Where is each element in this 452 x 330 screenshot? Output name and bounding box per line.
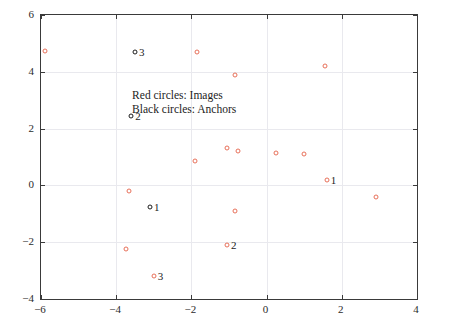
y-axis-tick [413,15,417,16]
y-axis-tick [41,185,45,186]
data-point-images [225,146,230,151]
scatter-plot-figure: 123321 −6−4−2024−4−20246Red circles: Ima… [0,0,452,330]
y-axis-tick [41,299,45,300]
y-axis-tick-label: −4 [14,292,34,304]
data-point-label: 3 [139,46,145,58]
y-axis-tick [41,242,45,243]
plot-area: 123321 [40,14,418,300]
y-axis-tick [413,299,417,300]
legend-annotation-2: Black circles: Anchors [132,103,236,115]
data-point-images [42,48,47,53]
y-axis-tick [413,129,417,130]
data-point-images [225,243,230,248]
data-point-label: 1 [154,201,160,213]
x-axis-tick-label: 0 [263,303,269,315]
data-point-images [193,159,198,164]
x-axis-tick-label: −4 [109,303,121,315]
y-axis-tick-label: 0 [14,178,34,190]
x-axis-tick-label: 4 [413,303,419,315]
gridline-horizontal [41,72,417,73]
y-axis-tick [41,129,45,130]
gridline-vertical [191,15,192,299]
data-point-images [123,247,128,252]
data-point-images [127,189,132,194]
gridline-vertical [342,15,343,299]
x-axis-tick [191,295,192,299]
x-axis-tick [267,15,268,19]
data-point-images [322,64,327,69]
x-axis-tick-label: −2 [185,303,197,315]
data-point-images [324,177,329,182]
y-axis-tick [413,242,417,243]
y-axis-tick-label: 6 [14,8,34,20]
x-axis-tick [342,15,343,19]
y-axis-tick [413,72,417,73]
x-axis-tick-label: 2 [338,303,344,315]
y-axis-tick [41,15,45,16]
gridline-horizontal [41,129,417,130]
gridline-vertical [116,15,117,299]
y-axis-tick-label: 4 [14,65,34,77]
data-point-images [274,150,279,155]
data-point-images [232,72,237,77]
data-point-images [373,194,378,199]
data-point-images [302,152,307,157]
y-axis-tick-label: 2 [14,122,34,134]
gridline-horizontal [41,185,417,186]
data-point-images [195,49,200,54]
x-axis-tick [191,15,192,19]
data-point-label: 3 [158,270,164,282]
x-axis-tick [267,295,268,299]
gridline-vertical [267,15,268,299]
data-point-anchors [133,49,138,54]
x-axis-tick [417,295,418,299]
y-axis-tick [413,185,417,186]
x-axis-tick-label: −6 [34,303,46,315]
data-point-images [232,208,237,213]
x-axis-tick [417,15,418,19]
x-axis-tick [116,295,117,299]
data-point-label: 2 [231,239,237,251]
data-point-anchors [148,204,153,209]
data-point-label: 1 [331,174,337,186]
data-point-images [236,149,241,154]
y-axis-tick [41,72,45,73]
data-point-images [151,274,156,279]
y-axis-tick-label: −2 [14,235,34,247]
legend-annotation-1: Red circles: Images [132,89,223,101]
x-axis-tick [116,15,117,19]
x-axis-tick [342,295,343,299]
